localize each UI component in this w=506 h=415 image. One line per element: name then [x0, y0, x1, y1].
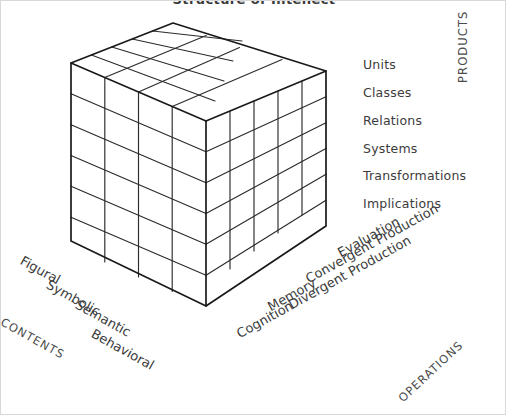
product-label-classes: Classes — [363, 85, 412, 100]
product-label-transformations: Transformations — [363, 168, 466, 183]
product-label-units: Units — [363, 57, 396, 72]
axis-title-products: PRODUCTS — [456, 0, 470, 83]
product-label-relations: Relations — [363, 113, 422, 128]
product-label-systems: Systems — [363, 141, 418, 156]
structure-of-intellect-diagram: Structure of Intellect — [0, 0, 506, 415]
